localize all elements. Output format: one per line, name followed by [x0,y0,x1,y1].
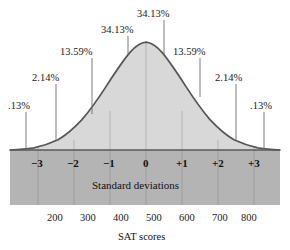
sd-tick-zero: 0 [143,158,149,169]
x-axis-title: SAT scores [118,232,165,243]
score-tick-600: 600 [179,213,195,224]
sd-tick-minus-2: −2 [67,158,79,169]
sd-tick-plus-1: +1 [176,158,188,169]
pct-label-left-0: .13% [8,101,30,112]
score-tick-800: 800 [241,213,257,224]
score-tick-300: 300 [80,213,96,224]
score-tick-500: 500 [146,213,162,224]
normal-distribution-chart: .13% 2.14% 13.59% 34.13% 34.13% 13.59% 2… [0,0,290,250]
score-tick-200: 200 [47,213,63,224]
sd-tick-plus-2: +2 [212,158,224,169]
curve-fill-area [10,42,280,150]
sd-tick-plus-3: +3 [248,158,260,169]
score-tick-700: 700 [212,213,228,224]
pct-label-left-2: 13.59% [60,47,92,58]
score-tick-400: 400 [113,213,129,224]
sd-tick-minus-1: −1 [103,158,115,169]
sd-tick-minus-3: −3 [31,158,43,169]
pct-label-left-3: 34.13% [101,25,133,36]
pct-label-right-1: 13.59% [173,47,205,58]
pct-label-right-0: 34.13% [137,9,169,20]
sd-axis-caption: Standard deviations [92,180,179,191]
pct-label-left-1: 2.14% [32,73,59,84]
pct-label-right-2: 2.14% [215,73,242,84]
pct-label-right-3: .13% [250,101,272,112]
